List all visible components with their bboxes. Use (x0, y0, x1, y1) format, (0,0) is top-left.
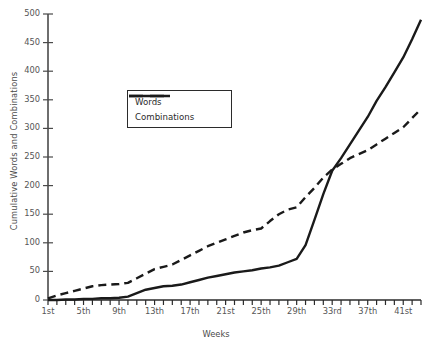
axis-lines (48, 14, 421, 300)
x-axis-tick-label: 25th (241, 306, 281, 316)
chart-figure: Cumulative Words and Combinations Weeks … (0, 0, 432, 347)
series-line-words (48, 109, 421, 298)
solid-line-key-icon (128, 91, 171, 101)
x-axis-tick-label: 21st (206, 306, 246, 316)
x-axis-tick-label: 17th (170, 306, 210, 316)
x-axis-tick-label: 41st (383, 306, 423, 316)
x-axis-tick-label: 29th (277, 306, 317, 316)
x-axis-tick-label: 33rd (312, 306, 352, 316)
x-axis-tick-label: 1st (28, 306, 68, 316)
chart-legend: Words Combinations (127, 90, 232, 128)
series-line-combinations (48, 20, 421, 300)
data-series-layer (48, 20, 421, 300)
x-axis-tick-label: 37th (348, 306, 388, 316)
legend-item-combinations: Combinations (128, 110, 231, 125)
legend-label-combinations: Combinations (135, 113, 194, 122)
plot-area (0, 0, 432, 347)
x-axis-tick-label: 9th (99, 306, 139, 316)
x-axis-tick-label: 5th (64, 306, 104, 316)
x-axis-tick-label: 13th (135, 306, 175, 316)
